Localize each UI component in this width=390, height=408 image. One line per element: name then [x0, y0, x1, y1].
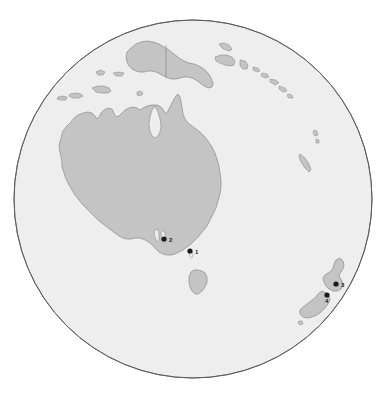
globe-map: 1 2 3 4 — [0, 0, 390, 408]
land-fiji-island-1 — [347, 95, 352, 99]
land-sunda-island-a — [69, 93, 83, 98]
marker-dot-2[interactable] — [161, 236, 166, 241]
marker-dot-1[interactable] — [187, 248, 192, 253]
land-fiji-island-2 — [353, 100, 356, 104]
marker-dot-4[interactable] — [324, 292, 329, 297]
land-vanuatu-island-2 — [316, 139, 319, 143]
map-container: 1 2 3 4 — [0, 0, 390, 408]
marker-dot-3[interactable] — [333, 281, 338, 286]
